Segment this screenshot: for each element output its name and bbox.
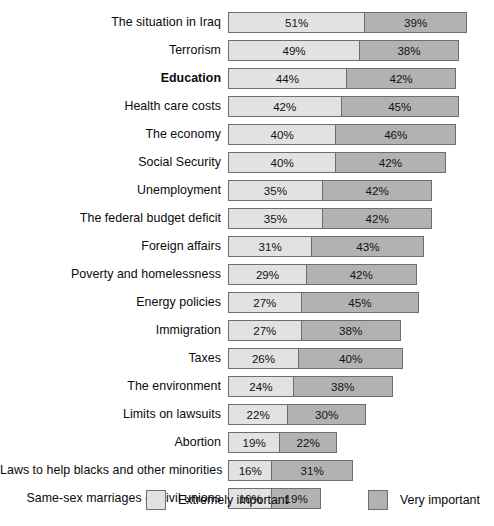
chart-row: The environment24%38% bbox=[0, 376, 494, 397]
bar-segment-very-important: 38% bbox=[293, 377, 392, 396]
bar-segment-extremely-important: 49% bbox=[229, 41, 359, 60]
bar-segment-extremely-important: 40% bbox=[229, 125, 335, 144]
bar-segment-very-important: 42% bbox=[346, 69, 456, 88]
chart-row: The economy40%46% bbox=[0, 124, 494, 145]
stacked-bar: 40%46% bbox=[228, 124, 456, 145]
bar-segment-very-important: 45% bbox=[341, 97, 458, 116]
bar-segment-extremely-important: 29% bbox=[229, 265, 306, 284]
stacked-bar: 26%40% bbox=[228, 348, 403, 369]
row-label: The environment bbox=[0, 380, 228, 393]
bar-segment-extremely-important: 51% bbox=[229, 13, 364, 32]
chart-row: Immigration27%38% bbox=[0, 320, 494, 341]
stacked-bar: 19%22% bbox=[228, 432, 337, 453]
chart-row: Limits on lawsuits22%30% bbox=[0, 404, 494, 425]
bar-segment-extremely-important: 35% bbox=[229, 209, 322, 228]
row-label: Terrorism bbox=[0, 44, 228, 57]
bar-segment-extremely-important: 24% bbox=[229, 377, 293, 396]
bar-segment-very-important: 42% bbox=[335, 153, 445, 172]
chart-rows: The situation in Iraq51%39%Terrorism49%3… bbox=[0, 12, 494, 516]
bar-segment-very-important: 43% bbox=[311, 237, 423, 256]
chart-row: Abortion19%22% bbox=[0, 432, 494, 453]
legend-swatch-very-important bbox=[368, 490, 388, 510]
row-label: Unemployment bbox=[0, 184, 228, 197]
row-label: Limits on lawsuits bbox=[0, 408, 228, 421]
legend-label-extremely-important: Extremely important bbox=[178, 494, 288, 507]
legend-item-extremely-important: Extremely important bbox=[146, 488, 288, 512]
bar-segment-extremely-important: 44% bbox=[229, 69, 346, 88]
stacked-bar: 35%42% bbox=[228, 180, 432, 201]
chart-row: Terrorism49%38% bbox=[0, 40, 494, 61]
chart-row: Laws to help blacks and other minorities… bbox=[0, 460, 494, 481]
bar-segment-very-important: 46% bbox=[335, 125, 455, 144]
bar-segment-extremely-important: 27% bbox=[229, 293, 301, 312]
stacked-bar: 49%38% bbox=[228, 40, 459, 61]
bar-segment-very-important: 38% bbox=[301, 321, 400, 340]
row-label: Immigration bbox=[0, 324, 228, 337]
bar-segment-extremely-important: 40% bbox=[229, 153, 335, 172]
legend-swatch-extremely-important bbox=[146, 490, 166, 510]
row-label: Education bbox=[0, 72, 228, 85]
chart-row: Energy policies27%45% bbox=[0, 292, 494, 313]
row-label: Energy policies bbox=[0, 296, 228, 309]
bar-segment-very-important: 31% bbox=[271, 461, 351, 480]
bar-segment-extremely-important: 35% bbox=[229, 181, 322, 200]
row-label: The economy bbox=[0, 128, 228, 141]
row-label: Poverty and homelessness bbox=[0, 268, 228, 281]
row-label: The federal budget deficit bbox=[0, 212, 228, 225]
chart-row: Health care costs42%45% bbox=[0, 96, 494, 117]
legend-item-very-important: Very important bbox=[368, 488, 480, 512]
stacked-bar: 44%42% bbox=[228, 68, 456, 89]
stacked-bar: 27%45% bbox=[228, 292, 419, 313]
row-label: Abortion bbox=[0, 436, 228, 449]
legend-label-very-important: Very important bbox=[400, 494, 480, 507]
chart-row: Poverty and homelessness29%42% bbox=[0, 264, 494, 285]
stacked-bar: 24%38% bbox=[228, 376, 393, 397]
bar-segment-extremely-important: 16% bbox=[229, 461, 271, 480]
chart-legend: Extremely important Very important bbox=[0, 488, 494, 514]
chart-row: Unemployment35%42% bbox=[0, 180, 494, 201]
chart-row: The situation in Iraq51%39% bbox=[0, 12, 494, 33]
stacked-bar: 22%30% bbox=[228, 404, 366, 425]
row-label: Taxes bbox=[0, 352, 228, 365]
stacked-bar: 42%45% bbox=[228, 96, 459, 117]
bar-segment-very-important: 30% bbox=[287, 405, 365, 424]
stacked-bar: 16%31% bbox=[228, 460, 353, 481]
bar-segment-extremely-important: 42% bbox=[229, 97, 341, 116]
bar-segment-very-important: 42% bbox=[306, 265, 416, 284]
bar-segment-extremely-important: 31% bbox=[229, 237, 311, 256]
bar-segment-extremely-important: 26% bbox=[229, 349, 298, 368]
row-label: Social Security bbox=[0, 156, 228, 169]
stacked-bar-chart: The situation in Iraq51%39%Terrorism49%3… bbox=[0, 0, 494, 526]
stacked-bar: 35%42% bbox=[228, 208, 432, 229]
stacked-bar: 51%39% bbox=[228, 12, 467, 33]
chart-row: Foreign affairs31%43% bbox=[0, 236, 494, 257]
bar-segment-extremely-important: 27% bbox=[229, 321, 301, 340]
stacked-bar: 29%42% bbox=[228, 264, 417, 285]
bar-segment-extremely-important: 19% bbox=[229, 433, 279, 452]
bar-segment-extremely-important: 22% bbox=[229, 405, 287, 424]
stacked-bar: 27%38% bbox=[228, 320, 401, 341]
chart-row: Social Security40%42% bbox=[0, 152, 494, 173]
row-label: The situation in Iraq bbox=[0, 16, 228, 29]
chart-row: Education44%42% bbox=[0, 68, 494, 89]
bar-segment-very-important: 45% bbox=[301, 293, 418, 312]
chart-row: The federal budget deficit35%42% bbox=[0, 208, 494, 229]
stacked-bar: 31%43% bbox=[228, 236, 424, 257]
chart-row: Taxes26%40% bbox=[0, 348, 494, 369]
bar-segment-very-important: 40% bbox=[298, 349, 402, 368]
row-label: Laws to help blacks and other minorities bbox=[0, 464, 228, 477]
bar-segment-very-important: 42% bbox=[322, 181, 432, 200]
row-label: Health care costs bbox=[0, 100, 228, 113]
stacked-bar: 40%42% bbox=[228, 152, 446, 173]
bar-segment-very-important: 22% bbox=[279, 433, 335, 452]
bar-segment-very-important: 42% bbox=[322, 209, 432, 228]
bar-segment-very-important: 38% bbox=[359, 41, 458, 60]
row-label: Foreign affairs bbox=[0, 240, 228, 253]
bar-segment-very-important: 39% bbox=[364, 13, 466, 32]
